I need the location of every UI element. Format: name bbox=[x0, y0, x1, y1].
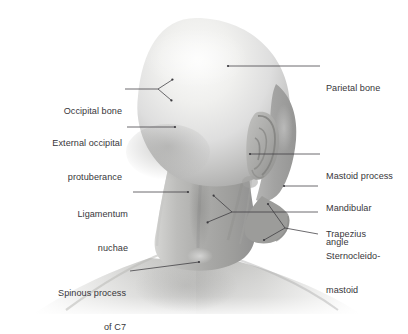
leader-spinous-process-c7 bbox=[130, 261, 200, 271]
leader-parietal-bone bbox=[227, 65, 320, 67]
label-ligamentum-nuchae-line2: nuchae bbox=[28, 243, 128, 254]
label-spinous-process-c7-line1: Spinous process bbox=[16, 288, 126, 299]
label-sternocleidomastoid-line2: mastoid bbox=[326, 285, 406, 296]
label-sternocleidomastoid-line1: Sternocleido- bbox=[326, 251, 406, 262]
leader-trapezius bbox=[207, 195, 319, 224]
label-spinous-process-c7: Spinous process of C7 bbox=[16, 265, 126, 334]
label-sternocleidomastoid: Sternocleido- mastoid bbox=[326, 228, 406, 319]
leader-external-occipital-protuberance bbox=[127, 126, 176, 128]
label-spinous-process-c7-line2: of C7 bbox=[16, 322, 126, 333]
leader-mastoid-process bbox=[249, 153, 320, 155]
label-parietal-bone: Parietal bone bbox=[326, 60, 406, 117]
leader-mandibular-angle bbox=[283, 185, 318, 187]
leader-sternocleidomastoid bbox=[263, 203, 318, 241]
label-ligamentum-nuchae: Ligamentum nuchae bbox=[28, 186, 128, 277]
label-external-occipital-protuberance-line2: protuberance bbox=[8, 172, 122, 183]
leader-ligamentum-nuchae bbox=[133, 191, 189, 193]
label-external-occipital-protuberance-line1: External occipital bbox=[8, 138, 122, 149]
label-ligamentum-nuchae-line1: Ligamentum bbox=[28, 209, 128, 220]
leader-occipital-bone bbox=[125, 78, 174, 101]
label-parietal-bone-line1: Parietal bone bbox=[326, 83, 406, 94]
